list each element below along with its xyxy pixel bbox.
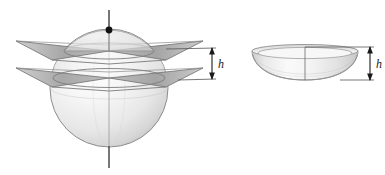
geometry-figure: h h	[0, 0, 385, 175]
pole-point-dot	[106, 27, 113, 34]
figure-root: h h	[0, 0, 385, 175]
left-dim-lower-leader	[178, 79, 216, 80]
right-height-dimension: h	[367, 46, 382, 81]
left-height-dimension: h	[209, 47, 224, 80]
right-height-label: h	[376, 57, 382, 71]
panel-spherical-zone: h	[252, 45, 382, 82]
left-height-label: h	[218, 57, 224, 71]
panel-sphere-with-planes: h	[16, 10, 224, 168]
